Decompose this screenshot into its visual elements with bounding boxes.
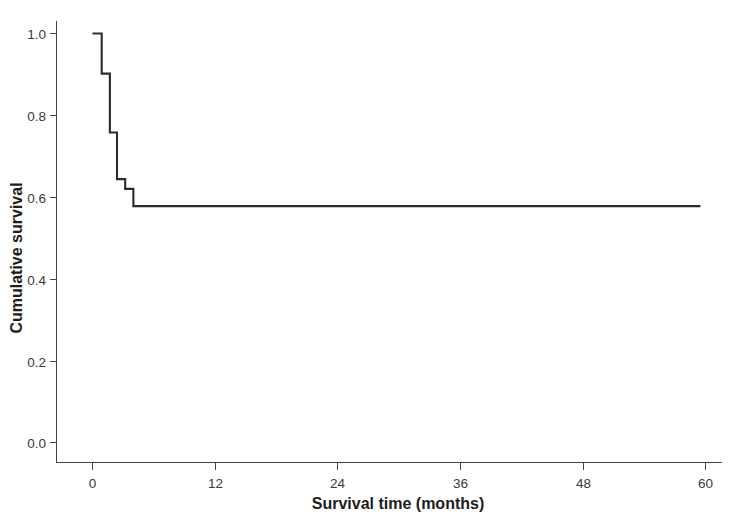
survival-plot-figure: 1.0 0.8 0.6 0.4 0.2 0.0 0 12 24 36 48 60 xyxy=(0,0,730,516)
x-tick-label: 60 xyxy=(698,476,713,491)
x-tick-label: 36 xyxy=(453,476,468,491)
x-tick-label: 12 xyxy=(208,476,223,491)
y-tick-label: 0.8 xyxy=(27,109,46,124)
y-tick-label: 0.6 xyxy=(27,191,46,206)
y-tick-label: 0.4 xyxy=(27,273,46,288)
x-axis-title: Survival time (months) xyxy=(312,495,484,512)
y-axis-title: Cumulative survival xyxy=(8,182,25,333)
survival-chart-svg: 1.0 0.8 0.6 0.4 0.2 0.0 0 12 24 36 48 60 xyxy=(0,0,730,516)
y-tick-label: 1.0 xyxy=(27,27,46,42)
x-tick-label: 0 xyxy=(89,476,97,491)
x-tick-label: 24 xyxy=(330,476,346,491)
y-tick-label: 0.2 xyxy=(27,355,46,370)
x-tick-label: 48 xyxy=(576,476,591,491)
y-tick-label: 0.0 xyxy=(27,436,46,451)
